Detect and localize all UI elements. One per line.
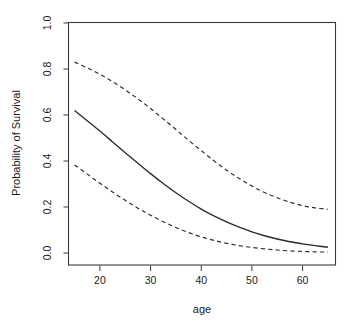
y-tick-label: 1.0 <box>41 16 53 31</box>
x-tick-label: 20 <box>94 274 106 286</box>
plot-root: 0.00.20.40.60.81.0 2030405060 age Probab… <box>0 0 357 329</box>
y-tick-label: 0.0 <box>41 246 53 261</box>
x-tick-label: 30 <box>145 274 157 286</box>
y-tick-label: 0.6 <box>41 108 53 123</box>
y-axis-title: Probability of Survival <box>10 90 22 196</box>
survival-probability-chart: 0.00.20.40.60.81.0 2030405060 age Probab… <box>0 0 357 329</box>
x-axis-title: age <box>193 303 211 315</box>
y-tick-label: 0.2 <box>41 200 53 215</box>
x-tick-label: 40 <box>195 274 207 286</box>
x-tick-label: 60 <box>297 274 309 286</box>
x-tick-label: 50 <box>246 274 258 286</box>
y-tick-label: 0.4 <box>41 154 53 169</box>
y-tick-label: 0.8 <box>41 62 53 77</box>
